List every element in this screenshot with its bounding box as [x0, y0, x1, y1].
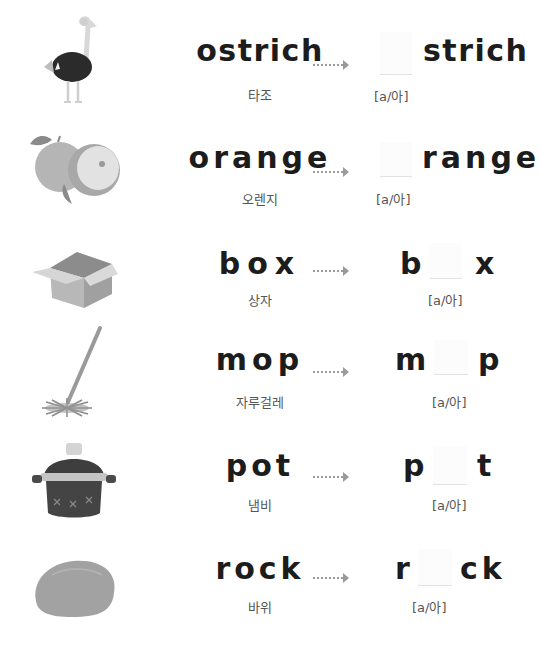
- answer-first-letter: b: [400, 246, 423, 281]
- pronunciation-hint: [a/아]: [374, 86, 409, 105]
- pronunciation-hint: [a/아]: [376, 189, 411, 208]
- pronunciation-hint: [a/아]: [412, 597, 447, 616]
- box-image: [22, 233, 122, 323]
- dotted-right-arrow-icon: [313, 472, 351, 482]
- orange-image: [22, 122, 122, 212]
- dotted-right-arrow-icon: [313, 167, 351, 177]
- korean-meaning: 냄비: [150, 495, 370, 514]
- mop-image: [22, 322, 122, 422]
- korean-meaning: 상자: [150, 290, 370, 309]
- exercise-row-box: box 상자 b x [a/아]: [0, 228, 529, 328]
- dotted-right-arrow-icon: [313, 367, 351, 377]
- answer-blank[interactable]: [380, 32, 412, 75]
- answer-remaining-letters: p: [478, 342, 501, 377]
- answer-blank[interactable]: [418, 549, 452, 586]
- answer-first-letter: p: [403, 448, 426, 483]
- ostrich-image: [22, 15, 122, 105]
- korean-meaning: 바위: [150, 597, 370, 616]
- exercise-row-pot: pot 냄비 p t [a/아]: [0, 430, 529, 530]
- answer-blank[interactable]: [430, 243, 462, 279]
- exercise-row-ostrich: ostrich 타조 strich [a/아]: [0, 10, 529, 110]
- exercise-row-mop: mop 자루걸레 m p [a/아]: [0, 322, 529, 422]
- pronunciation-hint: [a/아]: [428, 290, 463, 309]
- answer-first-letter: m: [395, 342, 428, 377]
- answer-remaining-letters: ck: [460, 551, 506, 586]
- dotted-right-arrow-icon: [313, 60, 351, 70]
- answer-remaining-letters: t: [477, 448, 493, 483]
- answer-first-letter: r: [395, 551, 411, 586]
- pronunciation-hint: [a/아]: [432, 495, 467, 514]
- answer-remaining-letters: x: [475, 246, 496, 281]
- pronunciation-hint: [a/아]: [432, 392, 467, 411]
- rock-image: [22, 541, 122, 631]
- answer-blank[interactable]: [380, 142, 412, 177]
- answer-remaining-letters: range: [422, 140, 540, 175]
- korean-meaning: 자루걸레: [150, 392, 370, 411]
- answer-remaining-letters: strich: [423, 33, 528, 68]
- dotted-right-arrow-icon: [313, 573, 351, 583]
- korean-meaning: 타조: [150, 85, 370, 104]
- exercise-row-orange: orange 오렌지 range [a/아]: [0, 120, 529, 220]
- answer-blank[interactable]: [433, 446, 467, 485]
- dotted-right-arrow-icon: [313, 266, 351, 276]
- exercise-row-rock: rock 바위 r ck [a/아]: [0, 533, 529, 633]
- pot-image: [22, 435, 122, 525]
- korean-meaning: 오렌지: [150, 189, 370, 208]
- answer-blank[interactable]: [434, 340, 468, 375]
